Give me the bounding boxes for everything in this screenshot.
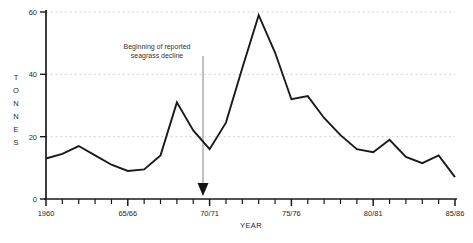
annotation-arrow-head-icon bbox=[198, 183, 209, 196]
y-tick-label-40: 40 bbox=[29, 70, 37, 79]
x-tick-label-8586: 85/86 bbox=[446, 209, 465, 218]
x-tick-label-7071: 70/71 bbox=[200, 209, 219, 218]
x-axis-ticks bbox=[46, 199, 455, 206]
y-tick-label-0: 0 bbox=[33, 195, 37, 204]
y-axis-title-letter-n1: N bbox=[13, 99, 18, 108]
y-tick-label-60: 60 bbox=[29, 8, 37, 17]
gridlines bbox=[46, 12, 455, 137]
x-tick-label-6566: 65/66 bbox=[118, 209, 137, 218]
annotation-line-2: seagrass decline bbox=[131, 52, 184, 60]
line-chart-figure: 60 40 20 0 T O N N E S bbox=[0, 0, 473, 243]
y-tick-label-20: 20 bbox=[29, 133, 37, 142]
y-axis-title-letter-t: T bbox=[14, 73, 19, 82]
y-axis-title-letter-e: E bbox=[13, 125, 18, 134]
y-axis-title-letter-n2: N bbox=[13, 112, 18, 121]
data-series-line bbox=[46, 15, 455, 177]
annotation-seagrass-decline: Beginning of reported seagrass decline bbox=[124, 43, 209, 196]
chart-canvas: 60 40 20 0 T O N N E S bbox=[0, 0, 473, 243]
x-tick-label-8081: 80/81 bbox=[364, 209, 383, 218]
x-axis-title: YEAR bbox=[240, 221, 262, 230]
y-axis-title: T O N N E S bbox=[13, 73, 19, 147]
annotation-line-1: Beginning of reported bbox=[124, 43, 191, 51]
y-axis-title-letter-o: O bbox=[13, 86, 19, 95]
y-axis-ticks bbox=[40, 12, 46, 199]
x-tick-label-1960: 1960 bbox=[38, 209, 55, 218]
x-tick-label-7576: 75/76 bbox=[282, 209, 301, 218]
y-axis-title-letter-s: S bbox=[13, 138, 18, 147]
